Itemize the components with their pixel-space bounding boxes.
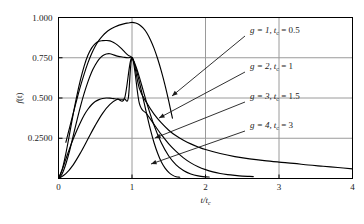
y-axis-title: f(t) bbox=[14, 92, 24, 103]
chart-background bbox=[0, 0, 364, 224]
chart-figure: 01234 0.25000.5000.7501.000 g = 1,tc = 0… bbox=[0, 0, 364, 224]
x-tick-label: 2 bbox=[203, 182, 208, 192]
chart-canvas: 01234 0.25000.5000.7501.000 g = 1,tc = 0… bbox=[0, 0, 364, 224]
legend-label: g = 2,tc = 1 bbox=[250, 61, 293, 72]
legend-label: g = 4,tc = 3 bbox=[250, 120, 294, 131]
legend-label: g = 3,tc = 1.5 bbox=[250, 91, 300, 102]
y-tick-label: 0.2500 bbox=[28, 133, 53, 143]
legend-label: g = 1,tc = 0.5 bbox=[250, 25, 300, 36]
y-tick-label: 0.500 bbox=[32, 93, 53, 103]
x-tick-label: 0 bbox=[56, 182, 61, 192]
y-tick-label: 1.000 bbox=[32, 13, 53, 23]
x-tick-label: 4 bbox=[350, 182, 355, 192]
y-tick-label: 0.750 bbox=[32, 53, 53, 63]
x-tick-label: 1 bbox=[130, 182, 135, 192]
x-tick-label: 3 bbox=[277, 182, 282, 192]
